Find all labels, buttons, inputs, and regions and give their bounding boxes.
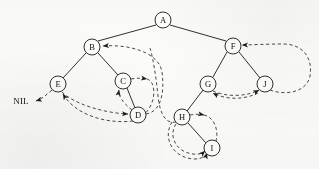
tree-node-i[interactable]: I: [204, 140, 220, 156]
node-label-d: D: [135, 110, 141, 120]
tree-node-a[interactable]: A: [155, 12, 171, 28]
node-label-b: B: [89, 42, 95, 52]
node-label-i: I: [211, 143, 214, 153]
tree-node-f[interactable]: F: [225, 38, 241, 54]
nil-label: NIL: [13, 96, 29, 106]
tree-node-g[interactable]: G: [200, 76, 216, 92]
tree-node-e[interactable]: E: [50, 76, 66, 92]
tree-edge-a-f: [170, 25, 226, 41]
nodes-group: A B F E C G: [50, 12, 273, 156]
tree-edge-b-e: [63, 53, 86, 78]
thread-link-e-to-nil: [36, 90, 52, 101]
tree-canvas: A B F E C G: [0, 0, 319, 169]
node-label-g: G: [205, 79, 211, 89]
tree-node-d[interactable]: D: [130, 107, 146, 123]
tree-edge-f-j: [239, 52, 260, 78]
thread-link-i-to-g: [168, 122, 207, 159]
threaded-tree-figure: A B F E C G: [0, 0, 319, 169]
node-label-a: A: [160, 15, 167, 25]
thread-links-group: [36, 44, 311, 159]
tree-edge-f-g: [213, 52, 227, 77]
thread-link-i-to-h: [173, 124, 205, 154]
tree-node-h[interactable]: H: [174, 109, 190, 125]
tree-edge-c-d: [127, 88, 135, 108]
node-label-f: F: [231, 41, 236, 51]
tree-edge-a-b: [98, 25, 156, 41]
thread-link-e-to-d: [62, 92, 128, 114]
thread-link-c-to-d: [131, 78, 147, 79]
tree-edge-g-h: [187, 90, 203, 111]
node-label-e: E: [55, 79, 60, 89]
thread-link-g-to-j: [213, 90, 259, 95]
tree-edge-h-i: [188, 123, 206, 143]
tree-node-c[interactable]: C: [115, 73, 131, 89]
tree-edge-b-c: [98, 53, 118, 75]
tree-node-j[interactable]: J: [257, 76, 273, 92]
node-label-h: H: [179, 112, 185, 122]
thread-link-d-to-c: [119, 90, 132, 110]
node-label-c: C: [120, 76, 126, 86]
thread-link-d-to-e: [63, 94, 133, 122]
tree-node-b[interactable]: B: [84, 39, 100, 55]
thread-link-h-to-i: [190, 114, 204, 115]
